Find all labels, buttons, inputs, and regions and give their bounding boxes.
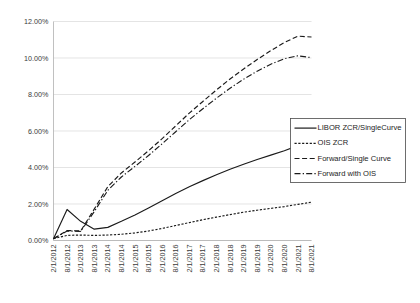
x-tick-label: 2/1/2018 — [212, 245, 221, 273]
y-tick-label: 6.00% — [28, 127, 49, 136]
data-series — [54, 36, 312, 239]
x-tick-label: 8/1/2018 — [226, 245, 235, 273]
x-tick-label: 2/1/2016 — [158, 245, 167, 273]
series-line — [54, 56, 312, 239]
y-tick-label: 4.00% — [28, 163, 49, 172]
y-tick-label: 12.00% — [24, 17, 49, 26]
x-tick-label: 8/1/2012 — [63, 245, 72, 273]
legend-label: Forward/Single Curve — [318, 154, 391, 163]
x-tick-label: 2/1/2014 — [103, 245, 112, 273]
x-tick-label: 8/1/2014 — [117, 245, 126, 273]
y-axis-ticks: 0.00%2.00%4.00%6.00%8.00%10.00%12.00% — [24, 17, 49, 245]
legend-label: Forward with OIS — [318, 169, 377, 178]
x-tick-label: 2/1/2019 — [239, 245, 248, 273]
series-line — [54, 202, 312, 239]
chart-canvas: 0.00%2.00%4.00%6.00%8.00%10.00%12.00% 2/… — [0, 0, 420, 303]
x-tick-label: 8/1/2015 — [144, 245, 153, 273]
y-tick-label: 0.00% — [28, 236, 49, 245]
x-tick-label: 2/1/2020 — [266, 245, 275, 273]
y-tick-label: 8.00% — [28, 90, 49, 99]
legend-label: OIS ZCR — [318, 138, 349, 147]
x-tick-label: 8/1/2016 — [171, 245, 180, 273]
x-tick-label: 8/1/2021 — [307, 245, 316, 273]
x-tick-label: 8/1/2020 — [280, 245, 289, 273]
y-tick-label: 2.00% — [28, 200, 49, 209]
x-tick-label: 2/1/2015 — [131, 245, 140, 273]
x-tick-label: 8/1/2017 — [198, 245, 207, 273]
x-axis-ticks: 2/1/20128/1/20122/1/20138/1/20132/1/2014… — [49, 245, 316, 273]
y-tick-label: 10.00% — [24, 54, 49, 63]
x-tick-label: 8/1/2019 — [253, 245, 262, 273]
x-tick-label: 2/1/2013 — [76, 245, 85, 273]
x-tick-label: 2/1/2021 — [294, 245, 303, 273]
line-chart: 0.00%2.00%4.00%6.00%8.00%10.00%12.00% 2/… — [0, 0, 420, 303]
x-tick-label: 2/1/2017 — [185, 245, 194, 273]
legend-label: LIBOR ZCR/SingleCurve — [318, 123, 402, 132]
chart-legend: LIBOR ZCR/SingleCurveOIS ZCRForward/Sing… — [291, 119, 406, 183]
x-tick-label: 8/1/2013 — [90, 245, 99, 273]
x-tick-label: 2/1/2012 — [49, 245, 58, 273]
